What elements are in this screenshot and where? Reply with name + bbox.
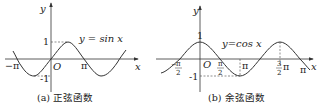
y-axis-label: y [192, 5, 199, 16]
tick-half-pi-num: π [218, 60, 223, 68]
tick-three-half-pi: π [283, 61, 289, 72]
tick-neg-one: -1 [189, 71, 198, 82]
tick-three-half-den: 2 [277, 69, 281, 77]
origin-label: O [53, 61, 61, 72]
caption-b: (b) 余弦函数 [208, 92, 265, 103]
x-axis-label: x [311, 61, 317, 72]
caption-a: (a) 正弦函数 [37, 92, 93, 103]
cosine-graph: y x O 1 -1 − π 2 π 2 π 3 2 π π y=cos x (… [156, 5, 317, 103]
tick-one: 1 [197, 30, 203, 41]
function-label: y=cos x [221, 38, 262, 49]
tick-pi: π [242, 60, 248, 71]
y-axis-label: y [39, 3, 46, 14]
tick-neg-half-pi-num: π [176, 60, 181, 68]
tick-neg-half-pi-den: 2 [176, 69, 180, 77]
x-axis-label: x [135, 61, 141, 72]
function-label: y = sin x [78, 33, 123, 44]
tick-three-half-num: 3 [277, 60, 281, 68]
origin-label: O [203, 59, 211, 70]
tick-one: 1 [43, 36, 49, 47]
tick-pi: π [81, 60, 87, 71]
tick-two-pi: π [300, 64, 306, 75]
sine-graph: y x O 1 -1 −π π y = sin x (a) 正弦函数 [5, 3, 141, 103]
tick-half-pi-den: 2 [218, 69, 222, 77]
tick-neg-pi: −π [5, 60, 19, 71]
trig-function-figures: y x O 1 -1 −π π y = sin x (a) 正弦函数 y x O… [0, 0, 318, 111]
tick-neg-one: -1 [40, 73, 49, 84]
